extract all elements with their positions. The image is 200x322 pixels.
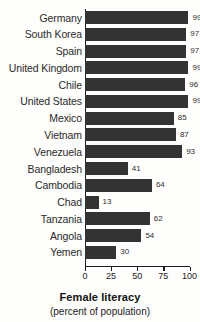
category-label: South Korea (25, 29, 82, 40)
bar (85, 212, 150, 225)
bar-row: Vietnam87 (0, 128, 200, 141)
bar-value-label: 99 (192, 97, 200, 105)
bar (85, 229, 141, 242)
bar-value-label: 64 (156, 181, 165, 189)
bar-value-label: 13 (103, 198, 112, 206)
bar (85, 145, 182, 158)
bar (85, 162, 128, 175)
female-literacy-bar-chart: Germany99South Korea97Spain97United King… (0, 0, 200, 322)
category-label: United Kingdom (9, 63, 82, 74)
bar-row: Germany99 (0, 11, 200, 24)
bar-value-label: 97 (190, 47, 199, 55)
bar (85, 112, 174, 125)
bar-value-label: 62 (154, 215, 163, 223)
x-tick-label: 100 (182, 272, 197, 281)
chart-title: Female literacy (0, 291, 200, 303)
category-label: Cambodia (35, 180, 82, 191)
bar (85, 61, 188, 74)
bar-value-label: 97 (190, 30, 199, 38)
bar (85, 246, 116, 259)
bar (85, 196, 99, 209)
category-label: Spain (56, 46, 82, 57)
bar (85, 128, 176, 141)
bar (85, 11, 188, 24)
x-tick-label: 50 (132, 272, 142, 281)
category-label: Vietnam (44, 130, 82, 141)
bar (85, 179, 152, 192)
bar-value-label: 87 (180, 131, 189, 139)
bar-row: Chile96 (0, 78, 200, 91)
x-tick-label: 0 (82, 272, 87, 281)
bar (85, 95, 188, 108)
bar-row: Yemen30 (0, 246, 200, 259)
bar-value-label: 41 (132, 165, 141, 173)
bar-row: Chad13 (0, 196, 200, 209)
bar-row: Angola54 (0, 229, 200, 242)
category-label: Mexico (49, 113, 82, 124)
bar-row: Spain97 (0, 45, 200, 58)
category-label: Yemen (50, 247, 82, 258)
bar-value-label: 85 (178, 114, 187, 122)
category-label: Tanzania (41, 214, 82, 225)
category-label: Angola (50, 230, 82, 241)
plot-area: Germany99South Korea97Spain97United King… (0, 0, 200, 268)
bar-value-label: 93 (186, 148, 195, 156)
category-label: Germany (40, 12, 82, 23)
category-label: Venezuela (34, 146, 82, 157)
bar-value-label: 99 (192, 14, 200, 22)
bar-row: Mexico85 (0, 112, 200, 125)
category-label: United States (20, 96, 82, 107)
bar-row: South Korea97 (0, 28, 200, 41)
bar-row: United States99 (0, 95, 200, 108)
category-label: Bangladesh (28, 163, 82, 174)
bar (85, 28, 186, 41)
x-tick-label: 75 (158, 272, 168, 281)
bar-row: Cambodia64 (0, 179, 200, 192)
bar-row: United Kingdom99 (0, 61, 200, 74)
x-tick-label: 25 (106, 272, 116, 281)
category-label: Chile (59, 79, 82, 90)
chart-subtitle: (percent of population) (0, 306, 200, 317)
bar-row: Bangladesh41 (0, 162, 200, 175)
bar-value-label: 54 (145, 232, 154, 240)
bar-row: Venezuela93 (0, 145, 200, 158)
bar (85, 78, 185, 91)
bar-value-label: 30 (120, 248, 129, 256)
bar-value-label: 96 (189, 81, 198, 89)
category-label: Chad (57, 197, 82, 208)
bar (85, 45, 186, 58)
bar-row: Tanzania62 (0, 212, 200, 225)
bar-value-label: 99 (192, 64, 200, 72)
